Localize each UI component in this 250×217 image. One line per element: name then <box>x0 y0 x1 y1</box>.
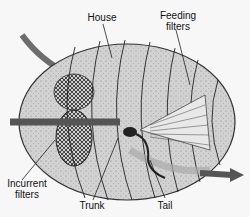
label-feeding-filters: Feeding filters <box>150 10 206 32</box>
label-trunk: Trunk <box>74 200 110 211</box>
upper-incurrent-filter <box>54 74 94 110</box>
lower-incurrent-filter <box>56 110 92 166</box>
label-feeding-filters-line1: Feeding <box>150 10 206 21</box>
diagram: House Feeding filters Incurrent filters … <box>0 0 250 217</box>
label-tail: Tail <box>152 200 178 211</box>
label-incurrent-filters: Incurrent filters <box>2 178 52 200</box>
trunk <box>123 127 137 137</box>
label-incurrent-filters-line1: Incurrent <box>2 178 52 189</box>
label-house: House <box>82 12 122 23</box>
label-feeding-filters-line2: filters <box>150 21 206 32</box>
label-incurrent-filters-line2: filters <box>2 189 52 200</box>
